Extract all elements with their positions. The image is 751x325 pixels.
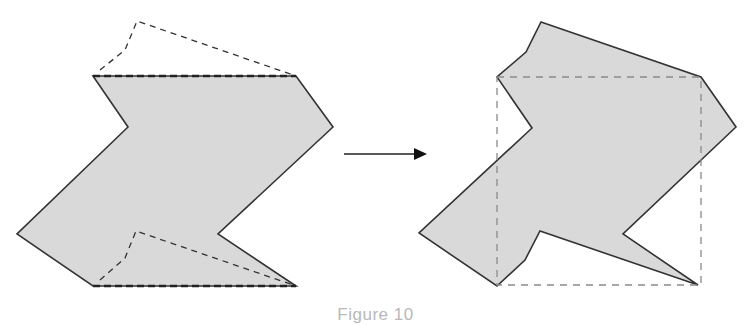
left-panel [17,21,333,286]
clipped-header-text [0,0,751,4]
right-shape-polygon [419,22,736,286]
right-panel [419,22,736,286]
transform-arrow [344,148,427,160]
left-dashed-top-outline [100,21,296,76]
left-shape-polygon [17,76,333,286]
figure-caption: Figure 10 [0,305,751,325]
arrow-head-icon [414,148,427,160]
